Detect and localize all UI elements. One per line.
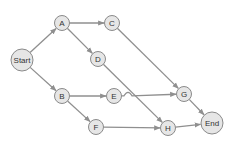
- edge-start-to-a: [30, 28, 56, 52]
- edge-e-to-g: [121, 92, 176, 96]
- edge-b-to-f: [68, 101, 91, 122]
- edge-h-to-end: [175, 124, 200, 127]
- node-d: D: [91, 52, 106, 67]
- node-b: B: [55, 89, 70, 104]
- node-label: E: [111, 92, 116, 101]
- node-g: G: [177, 87, 192, 102]
- node-end: End: [201, 112, 223, 134]
- node-label: F: [94, 123, 99, 132]
- node-label: D: [95, 55, 101, 64]
- node-a: A: [55, 16, 70, 31]
- node-label: H: [165, 124, 171, 133]
- node-c: C: [105, 16, 120, 31]
- edge-start-to-b: [30, 67, 56, 90]
- node-e: E: [107, 89, 122, 104]
- node-label: Start: [14, 56, 32, 65]
- node-start: Start: [11, 49, 33, 71]
- node-f: F: [89, 120, 104, 135]
- edge-c-to-g: [117, 28, 178, 88]
- node-label: G: [181, 90, 187, 99]
- edge-g-to-end: [189, 99, 204, 114]
- node-label: A: [59, 19, 65, 28]
- nodes-layer: StartACDBEFGHEnd: [11, 16, 223, 136]
- flow-diagram: StartACDBEFGHEnd: [0, 0, 233, 143]
- node-h: H: [161, 121, 176, 136]
- node-label: End: [205, 119, 219, 128]
- edge-f-to-h: [103, 127, 160, 128]
- edge-a-to-d: [67, 28, 92, 53]
- node-label: C: [109, 19, 115, 28]
- edges-layer: [30, 23, 204, 128]
- node-label: B: [59, 92, 64, 101]
